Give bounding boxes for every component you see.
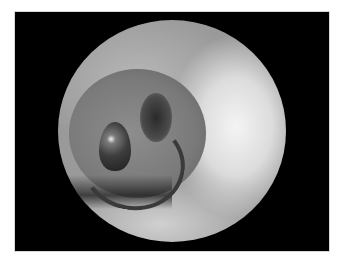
balloon-object [99, 122, 131, 171]
endoscopic-view [58, 20, 286, 242]
image-frame [15, 12, 329, 251]
